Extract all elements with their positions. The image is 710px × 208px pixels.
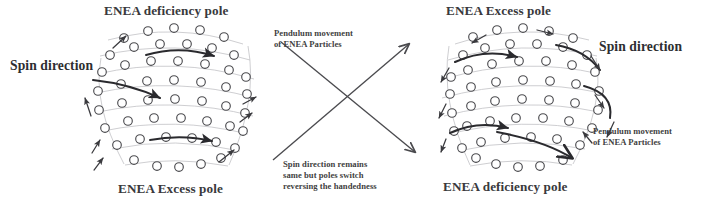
left-pendulum-label-line2: of ENEA Particles [274, 40, 342, 50]
right-particle-nodes [446, 24, 604, 172]
left-pendulum-label-line1: Pendulum movement [274, 29, 353, 39]
transform-arrow-up-right[interactable] [273, 44, 409, 160]
right-top-pole-label: ENEA Excess pole [446, 4, 551, 19]
left-spin-direction-label: Spin direction [10, 58, 93, 73]
right-pendulum-label-line1: Pendulum movement [593, 127, 672, 137]
left-bottom-pole-label: ENEA Excess pole [118, 182, 223, 197]
left-top-pole-label: ENEA deficiency pole [104, 4, 228, 19]
right-pendulum-arrows[interactable] [439, 30, 614, 152]
right-spin-direction-label: Spin direction [599, 39, 682, 54]
left-sphere-group [85, 24, 256, 172]
right-sphere-group [439, 24, 614, 172]
center-note-line1: Spin direction remains [283, 160, 367, 170]
left-particle-nodes [94, 24, 252, 172]
right-bottom-pole-label: ENEA deficiency pole [443, 180, 567, 195]
center-note-line2: same but poles switch [283, 171, 364, 181]
center-note-line3: reversing the handedness [283, 182, 377, 192]
figure-canvas: ENEA deficiency pole ENEA Excess pole Sp… [0, 0, 710, 208]
right-pendulum-label-line2: of ENEA Particles [593, 138, 661, 148]
